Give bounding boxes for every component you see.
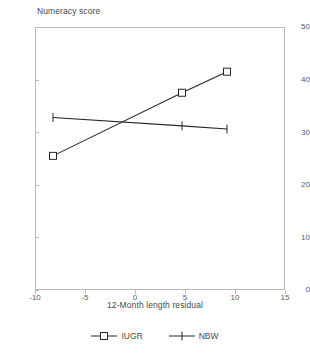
y-tick-mark-30 [35,132,39,133]
legend-item-nbw[interactable]: NBW [169,331,219,341]
legend-label-iugr: IUGR [121,332,142,341]
y-tick-label-30: 30 [288,129,310,137]
chart-figure: Numeracy score 50 40 30 20 10 0 -10 -5 0… [0,0,310,354]
chart-title: Numeracy score [37,6,100,16]
y-tick-label-40: 40 [288,76,310,84]
legend-plus-marker-icon [169,331,195,341]
y-tick-mark-50 [35,27,39,28]
chart-legend: IUGR NBW [0,331,310,341]
y-tick-mark-20 [35,185,39,186]
plot-area-frame [35,27,285,290]
legend-label-nbw: NBW [199,332,219,341]
y-tick-label-20: 20 [288,181,310,189]
y-tick-mark-10 [35,237,39,238]
y-tick-label-50: 50 [288,23,310,31]
legend-square-marker-icon [91,331,117,341]
legend-item-iugr[interactable]: IUGR [91,331,142,341]
y-tick-label-10: 10 [288,234,310,242]
y-tick-mark-40 [35,80,39,81]
x-axis-title: 12-Month length residual [0,300,310,310]
y-tick-label-0: 0 [288,286,310,294]
